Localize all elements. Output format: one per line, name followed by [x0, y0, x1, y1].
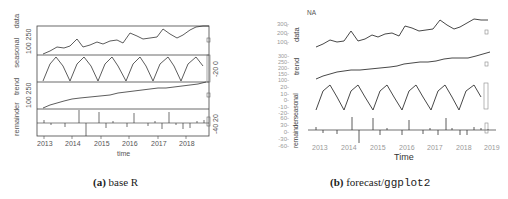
panel-b-label-data: data: [292, 27, 301, 42]
panel-b-xtick: 2018: [456, 144, 472, 151]
panel-a-data-line: [43, 26, 209, 54]
panel-a-ytick-remainder: -40 20: [212, 114, 219, 134]
panel-b-ggplot2: [286, 19, 496, 143]
panel-a-ytick-data: 100 250: [25, 29, 32, 54]
panel-b-xtick: 2014: [341, 144, 357, 151]
panel-b-xlabel: Time: [394, 152, 414, 162]
panel-b-ytick-seasonal: 20- 10- 0- -10- -20-: [275, 84, 289, 117]
ytick: 200-: [275, 29, 289, 38]
caption-a-tag: (a): [93, 176, 106, 188]
ytick: 0-: [275, 129, 289, 136]
ytick: 60-: [275, 115, 289, 122]
caption-a-text: base R: [109, 176, 139, 188]
ytick: 300-: [275, 20, 289, 29]
panel-a-seasonal-line: [43, 57, 203, 81]
panel-a-scale-bars: [207, 38, 210, 126]
panel-b-ytick-trend: 300- 250- 200- 150- 100-: [275, 53, 289, 83]
panel-b-xtick: 2013: [312, 144, 328, 151]
panel-b-xtick: 2019: [484, 144, 500, 151]
caption-a: (a) base R: [93, 176, 138, 188]
panel-b-ytick-data: 300- 200- 100-: [275, 20, 289, 47]
panel-a-label-trend: trend: [12, 78, 21, 95]
ytick: 100-: [275, 77, 289, 83]
figure-canvas: remainder: [0, 0, 508, 199]
ytick: 30-: [275, 122, 289, 129]
panel-a-ytick-seasonal: -20 0: [212, 61, 219, 77]
caption-b: (b) forecast/ggplot2: [330, 176, 430, 189]
panel-a-base-r: [37, 26, 210, 139]
panel-a-label-remainder: remainder: [12, 102, 21, 136]
panel-b-scale-bars: [484, 30, 488, 133]
panel-b-seasonal-line: [316, 85, 481, 110]
panel-b-label-trend: trend: [292, 58, 301, 75]
panel-a-x-ticks: [44, 136, 186, 139]
panel-a-label-column: remainder trend seasonal data 100 250 10…: [0, 0, 40, 150]
panel-a-ytick-trend: 100 250: [25, 83, 32, 108]
panel-b-xtick: 2015: [370, 144, 386, 151]
ytick: 100-: [275, 38, 289, 47]
panel-a-trend-line: [43, 82, 206, 108]
caption-b-tag: (b): [330, 176, 343, 188]
caption-b-mono: ggplot2: [384, 177, 430, 189]
panel-b-label-seasonal: seasonal: [292, 94, 299, 120]
panel-b-label-remainder-seasonal: remainderseasonal: [292, 94, 299, 148]
panel-b-data-line: [316, 19, 488, 47]
panel-a-label-seasonal: seasonal: [12, 38, 21, 68]
panel-a-label-data: data: [12, 14, 21, 29]
caption-b-text: forecast/: [346, 176, 384, 188]
panel-b-x-axis: 2013 2014 2015 2016 2017 2018 2019 Time: [0, 144, 508, 166]
ytick: -30-: [275, 136, 289, 143]
panel-b-xtick: 2016: [399, 144, 415, 151]
panel-b-trend-line: [316, 52, 490, 79]
panel-a-ylabel-stack: remainder trend seasonal data: [12, 14, 21, 136]
panel-b-xtick: 2017: [427, 144, 443, 151]
panel-b-title: NA: [307, 9, 316, 16]
